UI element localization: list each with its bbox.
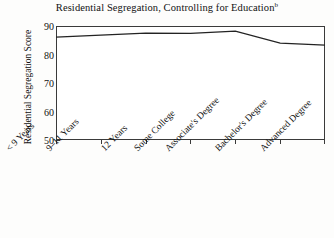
series-line-residential-segregation — [56, 31, 325, 45]
y-tick-label-80: 80 — [24, 49, 54, 60]
chart-figure: Residential Segregation, Controlling for… — [0, 0, 334, 238]
x-tick-mark-4 — [235, 140, 236, 144]
chart-title-text: Residential Segregation, Controlling for… — [56, 2, 275, 13]
y-tick-label-90: 90 — [24, 21, 54, 32]
x-tick-mark-5 — [280, 140, 281, 144]
y-tick-label-70: 70 — [24, 78, 54, 89]
y-tick-label-60: 60 — [24, 106, 54, 117]
chart-title-superscript: b — [275, 1, 279, 9]
x-tick-mark-6 — [324, 140, 325, 144]
y-axis-ticks: 90 80 70 60 50 — [20, 0, 54, 238]
x-tick-mark-3 — [190, 140, 191, 144]
